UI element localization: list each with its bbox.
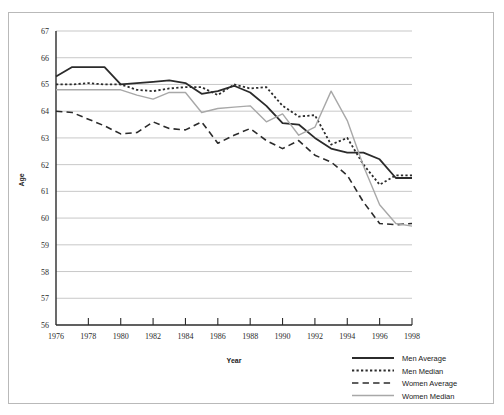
y-axis-tick-labels: 565758596061626364656667 [41,27,49,330]
y-axis-tick-label: 58 [41,268,49,277]
series-line-women-average [56,111,412,225]
x-axis-tick-label: 1992 [307,332,323,341]
y-axis-tick-label: 66 [41,54,49,63]
series-line-men-median [56,83,412,185]
y-axis-tick-label: 57 [41,294,49,303]
x-axis-tick-label: 1984 [177,332,193,341]
data-series-group [56,67,412,226]
x-axis-tick-label: 1980 [113,332,129,341]
y-axis-tick-label: 63 [41,134,49,143]
x-axis-tick-label: 1978 [80,332,96,341]
legend-label-men-average: Men Average [402,354,446,363]
x-axis-tick-labels: 1976197819801982198419861988199019921994… [48,332,420,341]
x-axis-tick-label: 1976 [48,332,64,341]
x-axis-tick-label: 1994 [339,332,355,341]
legend-label-men-median: Men Median [402,367,443,376]
series-line-men-average [56,67,412,178]
y-axis-tick-label: 62 [41,161,49,170]
chart-legend: Men AverageMen MedianWomen AverageWomen … [352,354,457,401]
x-axis-tickmarks [88,318,412,325]
x-axis-tick-label: 1988 [242,332,258,341]
x-axis-tick-label: 1996 [372,332,388,341]
y-axis-tick-label: 65 [41,80,49,89]
line-chart: 565758596061626364656667 197619781980198… [0,0,504,415]
y-axis-tick-label: 56 [41,321,49,330]
legend-label-women-median: Women Median [402,392,454,401]
x-axis-tick-label: 1990 [275,332,291,341]
y-axis-tick-label: 61 [41,187,49,196]
x-axis-tick-label: 1982 [145,332,161,341]
legend-label-women-average: Women Average [402,379,457,388]
y-axis-title: Age [18,173,26,186]
y-axis-tick-label: 64 [41,107,49,116]
x-axis-title: Year [227,357,242,364]
y-axis-tick-label: 67 [41,27,49,36]
x-axis-tick-label: 1986 [210,332,226,341]
y-axis-tick-label: 60 [41,214,49,223]
y-axis-tick-label: 59 [41,241,49,250]
x-axis-tick-label: 1998 [404,332,420,341]
chart-container: 565758596061626364656667 197619781980198… [0,0,504,415]
